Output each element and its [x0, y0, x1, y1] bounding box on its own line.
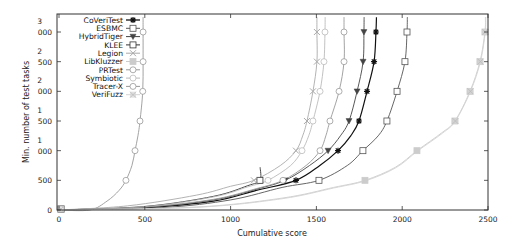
data-point-esbmc — [402, 59, 408, 65]
data-point-esbmc — [316, 177, 322, 183]
y-tick-label-part: 500 — [38, 58, 53, 67]
y-tick-label: 500 — [38, 176, 53, 185]
y-tick-label-part: 2 — [37, 47, 42, 56]
x-tick-label: 2000 — [393, 215, 412, 224]
y-tick-label-part: 1 — [37, 136, 42, 145]
legend-marker-tracer-x — [130, 83, 136, 89]
data-point-klee — [257, 177, 263, 183]
y-tick-label-part: 000 — [38, 28, 53, 37]
legend-marker-klee — [130, 42, 136, 48]
data-point-libkluzzer — [362, 177, 368, 183]
data-point-symbiotic — [299, 148, 305, 154]
x-tick-label: 2500 — [478, 215, 497, 224]
data-point-prtest — [132, 148, 138, 154]
data-point-symbiotic — [322, 29, 328, 35]
x-tick-label: 0 — [57, 215, 62, 224]
x-tick-label: 1000 — [221, 215, 240, 224]
data-point-legion — [251, 177, 257, 183]
legend-marker-symbiotic — [130, 75, 136, 81]
y-axis-title: Min. number of test tasks — [22, 61, 31, 163]
data-point-verifuzz — [452, 118, 458, 124]
data-point-esbmc — [404, 29, 410, 35]
data-point-coveritest — [335, 148, 341, 154]
data-point-symbiotic — [310, 118, 316, 124]
data-point-tracer-x — [317, 148, 323, 154]
legend-marker-verifuzz — [130, 92, 136, 98]
data-point-tracer-x — [280, 177, 286, 183]
data-point-verifuzz — [467, 88, 473, 94]
data-point-prtest — [123, 177, 129, 183]
data-point-hybridtiger — [360, 59, 366, 64]
data-point-prtest — [140, 59, 146, 65]
legend-marker-coveritest — [130, 17, 136, 23]
y-tick-label: 0 — [47, 206, 52, 215]
data-point-esbmc — [384, 118, 390, 124]
legend-item-verifuzz: VeriFuzz — [92, 90, 140, 99]
legend-marker-esbmc — [130, 25, 136, 31]
data-point-esbmc — [394, 88, 400, 94]
chart: 05001000150020002500 0500100015002000250… — [0, 0, 524, 245]
legend-marker-prtest — [130, 67, 136, 73]
data-point-coveritest — [293, 177, 299, 183]
legend-marker-libkluzzer — [130, 59, 136, 65]
y-tick-label-part: 1 — [37, 106, 42, 115]
series-line-klee — [59, 167, 261, 210]
x-tick-label: 1500 — [307, 215, 326, 224]
data-point-tracer-x — [341, 59, 347, 65]
y-tick-label-part: 000 — [38, 147, 53, 156]
data-point-libkluzzer — [414, 148, 420, 154]
y-tick-label-part: 000 — [38, 87, 53, 96]
data-point-coveritest — [356, 118, 362, 124]
y-tick-label-part: 3 — [37, 17, 42, 26]
data-point-coveritest — [371, 59, 377, 65]
data-point-esbmc — [360, 148, 366, 154]
legend: CoVeriTestESBMCHybridTigerKLEELegionLibK… — [79, 16, 140, 100]
data-point-coveritest — [364, 88, 370, 94]
x-tick-label: 500 — [138, 215, 153, 224]
data-point-prtest — [140, 29, 146, 35]
data-point-tracer-x — [327, 118, 333, 124]
data-point-prtest — [140, 88, 146, 94]
data-point-hybridtiger — [346, 119, 352, 124]
data-point-legion — [304, 118, 310, 124]
data-point-legion — [293, 148, 299, 154]
data-point-symbiotic — [321, 59, 327, 65]
data-point-prtest — [137, 118, 143, 124]
y-tick-label-part: 500 — [38, 117, 53, 126]
y-tick-label-part: 2 — [37, 76, 42, 85]
data-point-verifuzz — [477, 59, 483, 65]
data-point-hybridtiger — [361, 30, 367, 35]
data-point-symbiotic — [265, 177, 271, 183]
data-point-coveritest — [373, 29, 379, 35]
data-point-tracer-x — [341, 29, 347, 35]
data-point-tracer-x — [336, 88, 342, 94]
data-point-symbiotic — [317, 88, 323, 94]
series-line-tracer-x — [59, 17, 344, 210]
legend-label: VeriFuzz — [92, 90, 123, 99]
data-point-hybridtiger — [354, 89, 360, 94]
series-line-legion — [59, 17, 317, 210]
x-axis-title: Cumulative score — [237, 229, 307, 238]
